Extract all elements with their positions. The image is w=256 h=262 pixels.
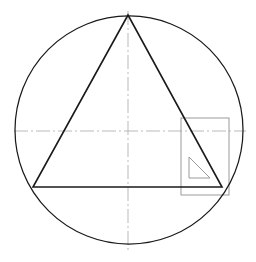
geometry-diagram	[0, 0, 256, 262]
drawing-canvas	[0, 0, 256, 262]
